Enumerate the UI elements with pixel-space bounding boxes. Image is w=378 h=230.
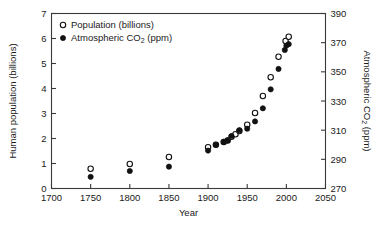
co2-data-point <box>260 106 265 111</box>
co2-data-point <box>127 168 132 173</box>
population-data-point <box>286 34 291 39</box>
co2-data-point <box>276 66 281 71</box>
x-tick-label: 1900 <box>198 192 219 203</box>
co2-data-point <box>205 148 210 153</box>
x-tick-label: 1800 <box>119 192 140 203</box>
legend-label-co2: Atmospheric CO2 (ppm) <box>71 32 172 44</box>
chart-figure: 17001750180018501900195020002050 0123456… <box>0 0 378 230</box>
chart-legend: Population (billions)Atmospheric CO2 (pp… <box>60 19 172 44</box>
y2-axis-title: Atmospheric CO2 (ppm) <box>361 50 373 151</box>
y2-axis-ticks: 270290310330350370390 <box>321 8 346 194</box>
y2-tick-label: 290 <box>331 154 347 165</box>
y2-tick-label: 370 <box>331 37 347 48</box>
x-tick-label: 1950 <box>237 192 258 203</box>
x-tick-label: 2000 <box>276 192 297 203</box>
co2-data-point <box>213 142 218 147</box>
y2-tick-label: 390 <box>331 8 347 19</box>
x-axis-title: Year <box>179 207 198 218</box>
co2-data-point <box>237 128 242 133</box>
co2-data-point <box>252 119 257 124</box>
co2-data-point <box>88 174 93 179</box>
y-tick-label: 6 <box>41 33 46 44</box>
co2-data-point <box>245 126 250 131</box>
x-tick-label: 1850 <box>158 192 179 203</box>
population-data-point <box>252 110 257 115</box>
y2-tick-label: 350 <box>331 66 347 77</box>
y-tick-label: 7 <box>41 8 46 19</box>
legend-marker-population <box>60 22 65 27</box>
population-data-point <box>276 54 281 59</box>
population-data-point <box>88 166 93 171</box>
y-tick-label: 4 <box>41 83 46 94</box>
y-tick-label: 0 <box>41 183 46 194</box>
legend-label-population: Population (billions) <box>71 19 154 30</box>
population-data-point <box>166 154 171 159</box>
co2-data-point <box>286 42 291 47</box>
population-data-point <box>268 75 273 80</box>
y-axis-ticks: 01234567 <box>41 8 56 194</box>
y2-tick-label: 270 <box>331 183 347 194</box>
y-tick-label: 2 <box>41 133 46 144</box>
co2-data-point <box>268 87 273 92</box>
y-tick-label: 5 <box>41 58 46 69</box>
population-data-point <box>260 93 265 98</box>
data-points <box>88 34 291 179</box>
y-tick-label: 1 <box>41 158 46 169</box>
x-tick-label: 1750 <box>80 192 101 203</box>
co2-data-point <box>166 164 171 169</box>
population-data-point <box>127 161 132 166</box>
co2-data-point <box>229 133 234 138</box>
y2-tick-label: 330 <box>331 96 347 107</box>
y2-tick-label: 310 <box>331 125 347 136</box>
legend-marker-co2 <box>60 35 65 40</box>
x-axis-ticks: 17001750180018501900195020002050 <box>41 184 336 203</box>
co2-data-point <box>225 138 230 143</box>
y-tick-label: 3 <box>41 108 46 119</box>
y-axis-title: Human population (billions) <box>7 43 18 158</box>
population-co2-scatter-chart: 17001750180018501900195020002050 0123456… <box>0 0 378 230</box>
